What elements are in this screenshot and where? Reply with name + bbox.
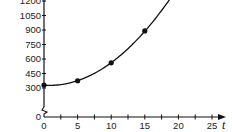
y-tick-label: 600 [25,53,41,64]
x-tick-label: 25 [207,120,218,131]
y-tick-label: 300 [25,82,41,93]
series-line [44,0,180,85]
y-tick-label: 1050 [20,10,41,21]
x-tick-label: 20 [173,120,184,131]
x-axis: 0510152025 [41,114,226,131]
y-tick-label: 1200 [20,0,41,6]
y-axis: 0300450600750900105012001350 [20,0,47,122]
data-point-marker [41,83,46,88]
x-axis-title: t [222,118,226,132]
x-tick-label: 15 [140,120,151,131]
data-series [41,0,181,88]
x-tick-label: 5 [75,120,80,131]
line-chart: 0300450600750900105012001350 0510152025 … [0,0,232,132]
y-tick-label: 750 [25,39,41,50]
y-tick-label: 900 [25,24,41,35]
data-point-marker [142,28,147,33]
y-tick-label: 450 [25,68,41,79]
data-point-marker [75,78,80,83]
data-point-marker [109,60,114,65]
y-tick-label: 0 [36,111,41,122]
x-tick-label: 0 [41,120,46,131]
x-tick-label: 10 [106,120,117,131]
